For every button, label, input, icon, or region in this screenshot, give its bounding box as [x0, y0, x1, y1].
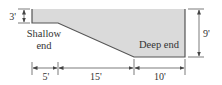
shallow-depth-label: 3': [9, 11, 16, 22]
length-dimensions: 5' 15' 10': [32, 59, 185, 82]
shallow-length-label: 5': [43, 71, 50, 82]
deep-depth-dimension: 9': [188, 9, 210, 57]
shallow-depth-dimension: 3': [9, 9, 30, 23]
slope-length-label: 15': [90, 71, 102, 82]
deep-end-label: Deep end: [139, 39, 180, 50]
shallow-end-label-line2: end: [36, 40, 52, 51]
pool-diagram: 3' 9' Shallow end Deep end 5' 15' 10': [0, 0, 222, 85]
deep-length-label: 10': [154, 71, 166, 82]
deep-depth-label: 9': [203, 28, 210, 39]
shallow-end-label-line1: Shallow: [27, 28, 62, 39]
